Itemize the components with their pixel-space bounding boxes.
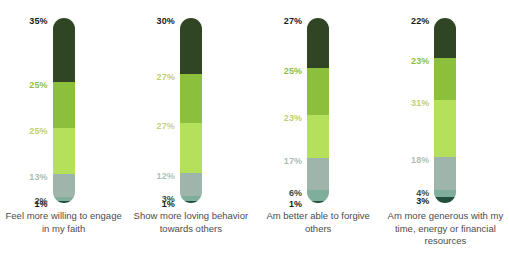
chart-column: 27%25%23%17%6%1%Am better able to forgiv… — [255, 18, 382, 254]
segment-value-label: 30% — [157, 17, 175, 26]
bar-area: 22%23%31%18%4%3% — [382, 18, 509, 203]
segment-value-label: 25% — [29, 81, 47, 90]
bar-segment — [180, 173, 202, 195]
segment-value-label: 1% — [162, 200, 175, 209]
segment-value-label: 27% — [157, 122, 175, 131]
segment-value-label: 17% — [284, 157, 302, 166]
segment-value-label: 27% — [284, 17, 302, 26]
bar-segment — [434, 190, 456, 197]
bar-segment — [434, 18, 456, 58]
segment-value-label: 3% — [416, 197, 429, 206]
bar-segment — [307, 190, 329, 201]
segment-value-label: 1% — [289, 200, 302, 209]
chart-column: 30%27%27%12%3%1%Show more loving behavio… — [127, 18, 254, 254]
segment-value-label: 13% — [29, 173, 47, 182]
bar-segment — [53, 82, 75, 128]
segment-value-label: 6% — [289, 189, 302, 198]
bar-segment — [180, 74, 202, 124]
bar-segment — [307, 68, 329, 115]
bar-segment — [53, 18, 75, 82]
segment-value-label: 23% — [284, 114, 302, 123]
bar-segment — [180, 18, 202, 74]
bar-segment — [434, 100, 456, 157]
bar-segment — [180, 123, 202, 173]
bar-area: 35%25%25%13%2%1% — [0, 18, 127, 203]
chart-columns: 35%25%25%13%2%1%Feel more willing to eng… — [0, 0, 509, 254]
stacked-bar-chart: 35%25%25%13%2%1%Feel more willing to eng… — [0, 0, 509, 254]
segment-value-label: 12% — [157, 172, 175, 181]
stacked-bar — [180, 18, 202, 203]
stacked-bar — [53, 18, 75, 203]
segment-value-label: 25% — [29, 127, 47, 136]
bar-segment — [180, 201, 202, 203]
bar-segment — [53, 201, 75, 203]
bar-segment — [434, 197, 456, 202]
chart-column: 22%23%31%18%4%3%Am more generous with my… — [382, 18, 509, 254]
bar-area: 27%25%23%17%6%1% — [255, 18, 382, 203]
stacked-bar — [307, 18, 329, 203]
bar-segment — [434, 58, 456, 100]
column-caption: Feel more willing to engage in my faith — [3, 210, 125, 235]
segment-value-label: 25% — [284, 67, 302, 76]
bar-segment — [53, 174, 75, 198]
segment-value-label: 27% — [157, 73, 175, 82]
segment-value-label: 18% — [411, 156, 429, 165]
bar-segment — [53, 128, 75, 174]
segment-value-label: 22% — [411, 17, 429, 26]
stacked-bar — [434, 18, 456, 203]
segment-value-label: 35% — [29, 17, 47, 26]
bar-area: 30%27%27%12%3%1% — [127, 18, 254, 203]
bar-segment — [307, 18, 329, 68]
segment-value-label: 31% — [411, 99, 429, 108]
column-caption: Am better able to forgive others — [257, 210, 379, 235]
chart-column: 35%25%25%13%2%1%Feel more willing to eng… — [0, 18, 127, 254]
bar-segment — [307, 158, 329, 190]
bar-segment — [307, 115, 329, 158]
column-caption: Am more generous with my time, energy or… — [384, 210, 506, 248]
bar-segment — [307, 201, 329, 203]
bar-segment — [434, 157, 456, 190]
segment-value-label: 23% — [411, 57, 429, 66]
column-caption: Show more loving behavior towards others — [130, 210, 252, 235]
segment-value-label: 1% — [34, 200, 47, 209]
